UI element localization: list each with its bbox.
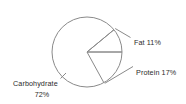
label-fat: Fat 11% xyxy=(134,38,161,47)
pie-chart-figure: Fat 11% Protein 17% Carbohydrate 72% xyxy=(0,0,186,104)
pie-slice-carbohydrate xyxy=(87,30,114,52)
label-carbohydrate-name: Carbohydrate xyxy=(13,79,58,88)
leader-line-fat xyxy=(115,29,130,38)
pie-slice-protein xyxy=(87,52,122,83)
label-protein: Protein 17% xyxy=(136,68,177,77)
pie-chart-svg: Fat 11% Protein 17% Carbohydrate 72% xyxy=(0,0,186,104)
leader-line-protein xyxy=(105,67,133,84)
label-carbohydrate-value: 72% xyxy=(35,90,50,99)
